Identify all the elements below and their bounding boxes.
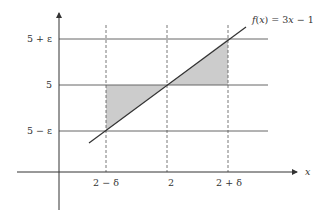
x-axis-label: x <box>305 166 311 177</box>
y-label-5: 5 <box>46 79 52 90</box>
x-label-2: 2 <box>168 177 174 188</box>
y-label-5-plus-epsilon: 5 + ε <box>27 33 52 44</box>
function-label: f(x) = 3x − 1 <box>251 14 314 25</box>
x-label-2-minus-delta: 2 − δ <box>93 177 119 188</box>
y-label-5-minus-epsilon: 5 − ε <box>27 125 52 136</box>
x-label-2-plus-delta: 2 + δ <box>216 177 242 188</box>
epsilon-delta-diagram: f(x) = 3x − 1 5 + ε 5 5 − ε 2 − δ 2 2 + … <box>0 0 327 218</box>
